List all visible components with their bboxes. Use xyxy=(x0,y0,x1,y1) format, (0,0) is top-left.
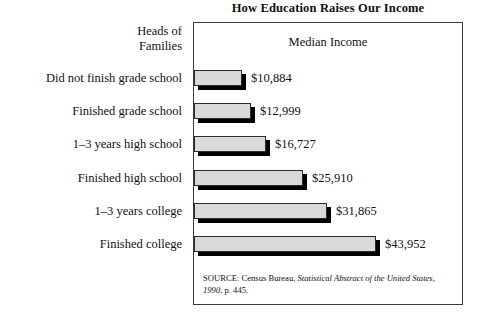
source-note: SOURCE: Census Bureau, Statistical Abstr… xyxy=(203,273,453,296)
bar xyxy=(194,203,327,219)
category-label: Finished college xyxy=(0,228,182,261)
row-header-line2: Families xyxy=(0,39,182,54)
row-header-label: Heads of Families xyxy=(0,24,182,54)
bar-row: $25,910 xyxy=(194,163,462,196)
source-suffix: , p. 445. xyxy=(220,285,248,295)
category-label: Did not finish grade school xyxy=(0,62,182,95)
category-label-column: Did not finish grade school Finished gra… xyxy=(0,62,182,261)
bar-row: $31,865 xyxy=(194,196,462,229)
bar xyxy=(194,236,376,252)
bar-row: $10,884 xyxy=(194,63,462,96)
chart-figure: How Education Raises Our Income Heads of… xyxy=(0,0,491,320)
bar-row: $12,999 xyxy=(194,96,462,129)
bar-value-label: $12,999 xyxy=(260,103,301,119)
category-label: 1–3 years college xyxy=(0,195,182,228)
bar-value-label: $16,727 xyxy=(275,136,316,152)
bar-wrap xyxy=(194,170,303,186)
chart-title: How Education Raises Our Income xyxy=(193,1,463,16)
bar-value-label: $25,910 xyxy=(312,170,353,186)
bar xyxy=(194,136,266,152)
bar-series: $10,884 $12,999 $16,727 $25,910 xyxy=(194,63,462,262)
bar-value-label: $43,952 xyxy=(385,236,426,252)
bar-row: $16,727 xyxy=(194,129,462,162)
bar-row: $43,952 xyxy=(194,229,462,262)
category-label: 1–3 years high school xyxy=(0,128,182,161)
category-label: Finished high school xyxy=(0,162,182,195)
plot-panel: Median Income $10,884 $12,999 $16,727 xyxy=(193,22,463,305)
row-header-line1: Heads of xyxy=(0,24,182,39)
bar xyxy=(194,170,303,186)
bar-wrap xyxy=(194,236,376,252)
bar-wrap xyxy=(194,203,327,219)
bar-wrap xyxy=(194,70,242,86)
source-prefix: SOURCE: Census Bureau, xyxy=(203,273,298,283)
value-axis-header: Median Income xyxy=(194,35,462,50)
bar-wrap xyxy=(194,136,266,152)
bar xyxy=(194,70,242,86)
bar-value-label: $10,884 xyxy=(251,70,292,86)
bar xyxy=(194,103,251,119)
category-label: Finished grade school xyxy=(0,95,182,128)
bar-value-label: $31,865 xyxy=(336,203,377,219)
bar-wrap xyxy=(194,103,251,119)
